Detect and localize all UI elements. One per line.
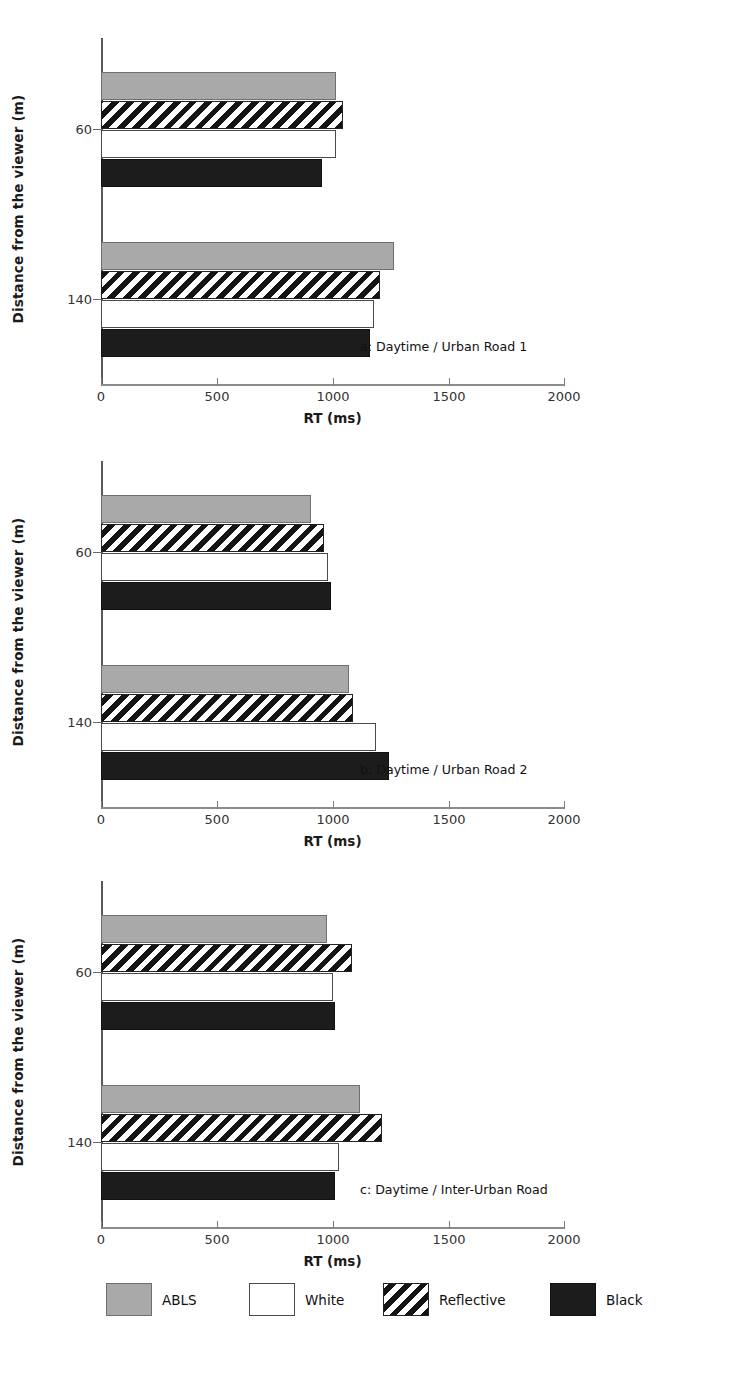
y-axis-title: Distance from the viewer (m) bbox=[10, 44, 32, 374]
bar-white-60 bbox=[101, 553, 328, 581]
legend-label-black: Black bbox=[606, 1292, 643, 1308]
legend-swatch-black bbox=[550, 1283, 596, 1316]
panel-caption-c: c: Daytime / Inter-Urban Road bbox=[360, 1182, 548, 1197]
x-tick-label-2000: 2000 bbox=[547, 812, 580, 827]
plot-area-a bbox=[101, 42, 564, 382]
legend-swatch-reflective bbox=[383, 1283, 429, 1316]
y-tick-label-140: 140 bbox=[58, 292, 92, 307]
bar-reflective-140 bbox=[101, 1114, 382, 1142]
bar-white-140 bbox=[101, 1143, 339, 1171]
bar-reflective-140 bbox=[101, 271, 380, 299]
y-axis-title: Distance from the viewer (m) bbox=[10, 887, 32, 1217]
bar-black-60 bbox=[101, 582, 331, 610]
y-tick-label-60: 60 bbox=[58, 122, 92, 137]
bar-black-140 bbox=[101, 1172, 335, 1200]
y-axis-title: Distance from the viewer (m) bbox=[10, 467, 32, 797]
bar-black-60 bbox=[101, 1002, 335, 1030]
x-tick-label-1500: 1500 bbox=[432, 1232, 465, 1247]
legend-item-abls: ABLS bbox=[106, 1283, 197, 1316]
legend-label-white: White bbox=[305, 1292, 344, 1308]
legend-label-reflective: Reflective bbox=[439, 1292, 506, 1308]
x-tick-label-0: 0 bbox=[97, 812, 105, 827]
x-axis-title: RT (ms) bbox=[101, 833, 564, 849]
chart-legend: ABLS White Reflective Black bbox=[0, 1283, 748, 1343]
x-tick-2000 bbox=[564, 1221, 565, 1229]
panel-caption-b: b: Daytime / Urban Road 2 bbox=[360, 762, 528, 777]
x-tick-label-500: 500 bbox=[205, 812, 230, 827]
bar-abls-140 bbox=[101, 242, 394, 270]
x-tick-2000 bbox=[564, 801, 565, 809]
bar-black-140 bbox=[101, 329, 370, 357]
x-tick-label-2000: 2000 bbox=[547, 389, 580, 404]
bar-abls-60 bbox=[101, 72, 336, 100]
legend-swatch-abls bbox=[106, 1283, 152, 1316]
x-tick-label-1000: 1000 bbox=[316, 812, 349, 827]
legend-swatch-white bbox=[249, 1283, 295, 1316]
x-tick-label-1000: 1000 bbox=[316, 389, 349, 404]
x-tick-label-1000: 1000 bbox=[316, 1232, 349, 1247]
bar-abls-60 bbox=[101, 915, 327, 943]
legend-item-reflective: Reflective bbox=[383, 1283, 506, 1316]
bar-reflective-60 bbox=[101, 101, 343, 129]
bar-abls-140 bbox=[101, 665, 349, 693]
x-tick-label-0: 0 bbox=[97, 1232, 105, 1247]
x-tick-label-500: 500 bbox=[205, 389, 230, 404]
bar-abls-60 bbox=[101, 495, 311, 523]
bar-black-60 bbox=[101, 159, 322, 187]
bar-white-60 bbox=[101, 130, 336, 158]
x-tick-label-0: 0 bbox=[97, 389, 105, 404]
x-axis-title: RT (ms) bbox=[101, 1253, 564, 1269]
figure: Distance from the viewer (m) 60 140 0 50… bbox=[0, 0, 748, 1397]
bar-black-140 bbox=[101, 752, 389, 780]
bar-reflective-140 bbox=[101, 694, 353, 722]
x-tick-label-1500: 1500 bbox=[432, 812, 465, 827]
bar-white-140 bbox=[101, 300, 374, 328]
x-axis-title: RT (ms) bbox=[101, 410, 564, 426]
bar-reflective-60 bbox=[101, 524, 324, 552]
legend-label-abls: ABLS bbox=[162, 1292, 197, 1308]
x-tick-label-2000: 2000 bbox=[547, 1232, 580, 1247]
x-tick-label-1500: 1500 bbox=[432, 389, 465, 404]
legend-item-white: White bbox=[249, 1283, 344, 1316]
bar-white-140 bbox=[101, 723, 376, 751]
x-tick-2000 bbox=[564, 378, 565, 386]
bar-reflective-60 bbox=[101, 944, 352, 972]
y-tick-label-140: 140 bbox=[58, 715, 92, 730]
plot-area-c bbox=[101, 885, 564, 1225]
chart-panel-c: Distance from the viewer (m) 60 140 0 50… bbox=[0, 857, 748, 1277]
bar-abls-140 bbox=[101, 1085, 360, 1113]
chart-panel-a: Distance from the viewer (m) 60 140 0 50… bbox=[0, 14, 748, 434]
y-tick-label-140: 140 bbox=[58, 1135, 92, 1150]
y-tick-label-60: 60 bbox=[58, 965, 92, 980]
plot-area-b bbox=[101, 465, 564, 805]
chart-panel-b: Distance from the viewer (m) 60 140 0 50… bbox=[0, 437, 748, 857]
panel-caption-a: a: Daytime / Urban Road 1 bbox=[360, 339, 527, 354]
y-tick-label-60: 60 bbox=[58, 545, 92, 560]
x-tick-label-500: 500 bbox=[205, 1232, 230, 1247]
bar-white-60 bbox=[101, 973, 333, 1001]
legend-item-black: Black bbox=[550, 1283, 643, 1316]
